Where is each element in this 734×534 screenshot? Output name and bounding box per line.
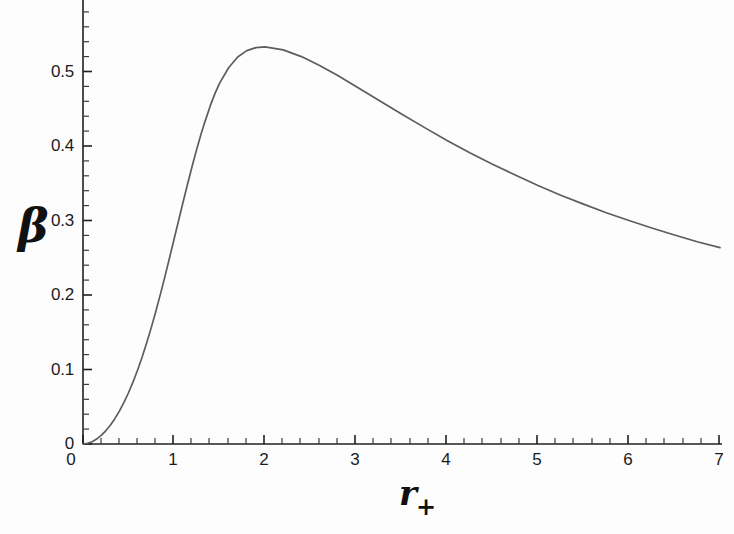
y-tick-label-0-2: 0.2 xyxy=(51,285,74,305)
y-tick-label-0-1: 0.1 xyxy=(51,360,74,380)
x-tick-label-6: 6 xyxy=(623,450,632,470)
y-tick-label-0-4: 0.4 xyxy=(51,136,74,156)
x-tick-label-1: 1 xyxy=(168,450,177,470)
x-axis-label: r+ xyxy=(399,476,436,519)
x-tick-label-5: 5 xyxy=(532,450,541,470)
x-tick-label-3: 3 xyxy=(350,450,359,470)
chart-figure: 0 0.1 0.2 0.3 0.4 0.5 0 1 2 3 4 5 6 7 β … xyxy=(0,0,734,534)
y-axis-label: β xyxy=(18,203,49,249)
x-axis-label-base: r xyxy=(399,473,417,513)
y-tick-label-0-3: 0.3 xyxy=(51,211,74,231)
x-major-ticks xyxy=(83,435,719,444)
y-tick-label-0-5: 0.5 xyxy=(51,62,74,82)
y-major-ticks xyxy=(83,72,92,445)
beta-curve xyxy=(83,47,720,444)
x-tick-label-0: 0 xyxy=(66,450,75,470)
x-tick-label-7: 7 xyxy=(714,450,723,470)
x-tick-label-4: 4 xyxy=(441,450,450,470)
x-axis-label-subscript: + xyxy=(416,492,436,521)
x-minor-ticks xyxy=(101,438,701,444)
x-tick-label-2: 2 xyxy=(259,450,268,470)
